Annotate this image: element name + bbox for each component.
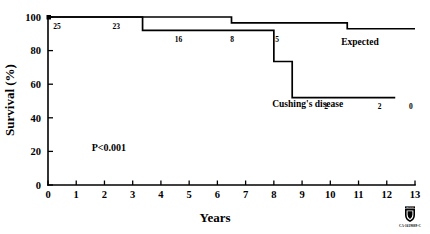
x-tick-label: 4 bbox=[158, 189, 164, 200]
at-risk-number: 8 bbox=[230, 35, 234, 44]
y-axis-tick-labels: 020406080100 bbox=[25, 12, 41, 191]
mayo-clinic-shield-icon: MAYO CA-1619889-C bbox=[399, 206, 422, 228]
survival-curve-expected bbox=[48, 17, 415, 29]
at-risk-number: 25 bbox=[53, 22, 61, 31]
survival-curves-group bbox=[48, 17, 415, 98]
y-tick-label: 40 bbox=[31, 113, 42, 124]
x-tick-label: 11 bbox=[354, 189, 364, 200]
y-tick-label: 20 bbox=[31, 146, 42, 157]
survival-chart-figure: 012345678910111213 020406080100 Years Su… bbox=[0, 0, 430, 234]
x-tick-label: 8 bbox=[271, 189, 276, 200]
y-tick-label: 100 bbox=[25, 12, 41, 23]
y-tick-label: 60 bbox=[31, 79, 42, 90]
chart-canvas: 012345678910111213 020406080100 Years Su… bbox=[0, 0, 430, 234]
x-tick-label: 2 bbox=[102, 189, 107, 200]
x-tick-label: 1 bbox=[74, 189, 79, 200]
y-tick-label: 0 bbox=[36, 180, 41, 191]
x-tick-label: 10 bbox=[325, 189, 336, 200]
curve-label-expected: Expected bbox=[341, 37, 379, 47]
x-tick-label: 6 bbox=[215, 189, 220, 200]
curve-start-dot bbox=[47, 15, 52, 20]
annotation-p-value: P<0.001 bbox=[92, 142, 126, 153]
annotations-group: P<0.001 bbox=[92, 142, 126, 153]
at-risk-number: 0 bbox=[409, 102, 413, 111]
survival-curve-cushing-s-disease bbox=[48, 17, 395, 98]
x-axis-tick-labels: 012345678910111213 bbox=[45, 189, 420, 200]
at-risk-number: 16 bbox=[175, 35, 183, 44]
at-risk-number: 5 bbox=[275, 35, 279, 44]
x-tick-label: 5 bbox=[187, 189, 192, 200]
at-risk-number: 23 bbox=[113, 22, 121, 31]
logo-code-text: CA-1619889-C bbox=[399, 224, 422, 228]
x-tick-label: 13 bbox=[410, 189, 421, 200]
at-risk-number: 2 bbox=[378, 102, 382, 111]
x-tick-label: 9 bbox=[299, 189, 304, 200]
x-tick-label: 7 bbox=[243, 189, 248, 200]
x-tick-label: 0 bbox=[45, 189, 50, 200]
x-tick-label: 12 bbox=[382, 189, 393, 200]
x-tick-label: 3 bbox=[130, 189, 135, 200]
x-axis-title: Years bbox=[199, 210, 230, 225]
y-axis-title: Survival (%) bbox=[2, 64, 17, 136]
logo-top-text: MAYO bbox=[406, 206, 413, 209]
curve-origin-marker bbox=[47, 15, 52, 20]
y-tick-label: 80 bbox=[31, 45, 42, 56]
curve-label-cushing-s-disease: Cushing's disease bbox=[272, 99, 343, 109]
